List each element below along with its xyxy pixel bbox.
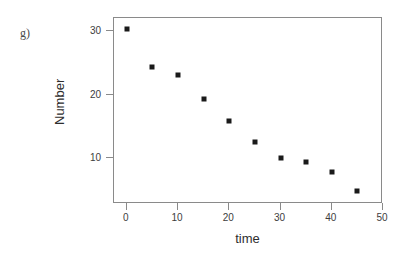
x-tick-label: 10	[171, 212, 182, 223]
x-tick-label: 30	[274, 212, 285, 223]
y-axis-label: Number	[52, 79, 67, 125]
data-point	[201, 97, 206, 102]
data-point	[124, 26, 129, 31]
y-tick-label: 30	[73, 25, 101, 36]
x-tick-label: 50	[376, 212, 387, 223]
x-tick-mark	[331, 203, 332, 210]
plot-area	[114, 18, 381, 202]
data-point	[252, 139, 257, 144]
chart-page: g) Number time 102030 01020304050	[0, 0, 404, 256]
x-tick-label: 40	[325, 212, 336, 223]
x-axis-label: time	[113, 231, 382, 246]
data-point	[329, 170, 334, 175]
data-point	[227, 119, 232, 124]
data-point	[278, 155, 283, 160]
x-tick-mark	[228, 203, 229, 210]
y-tick-label: 20	[73, 88, 101, 99]
data-point	[150, 64, 155, 69]
data-point	[355, 188, 360, 193]
x-tick-label: 20	[223, 212, 234, 223]
panel-letter: g)	[20, 26, 30, 41]
x-tick-mark	[280, 203, 281, 210]
plot-frame	[113, 17, 382, 203]
x-tick-mark	[126, 203, 127, 210]
x-tick-mark	[177, 203, 178, 210]
y-tick-mark	[106, 157, 113, 158]
x-tick-label: 0	[123, 212, 129, 223]
y-tick-mark	[106, 30, 113, 31]
y-tick-label: 10	[73, 152, 101, 163]
x-tick-mark	[382, 203, 383, 210]
data-point	[304, 160, 309, 165]
data-point	[176, 73, 181, 78]
y-tick-mark	[106, 94, 113, 95]
